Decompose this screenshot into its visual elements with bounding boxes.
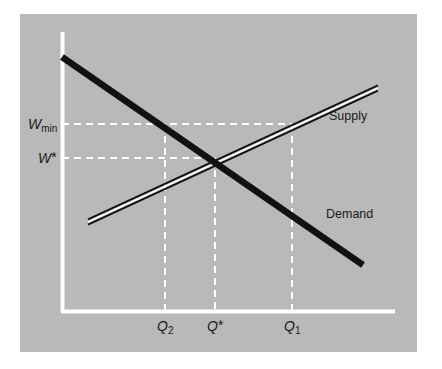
x-tick-qstar-base: Q [207,318,218,334]
chart-panel [20,14,417,352]
x-tick-label-qstar: Q* [207,318,223,334]
x-tick-label-q1: Q1 [284,318,300,336]
x-tick-label-q2: Q2 [157,318,173,336]
x-tick-q1-subscript: 1 [295,325,301,336]
y-tick-wmin-subscript: min [41,123,57,134]
y-tick-wstar-asterisk: * [51,149,56,165]
y-tick-wmin-base: W [28,116,41,132]
demand-curve-label: Demand [326,208,373,221]
y-tick-label-wstar: W* [38,150,57,166]
x-tick-q2-base: Q [157,318,168,334]
y-tick-label-wmin: Wmin [28,116,57,134]
x-tick-qstar-asterisk: * [218,317,223,333]
supply-demand-figure: Wmin W* Q2 Q* Q1 Supply Demand [0,0,442,369]
x-tick-q1-base: Q [284,318,295,334]
y-tick-wstar-base: W [38,150,51,166]
supply-curve-label: Supply [329,110,367,123]
x-tick-q2-subscript: 2 [168,325,174,336]
